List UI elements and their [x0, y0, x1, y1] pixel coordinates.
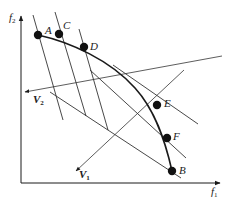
v2-label: V2 — [33, 94, 44, 107]
point-b-label: B — [179, 165, 186, 176]
point-a-label: A — [45, 25, 52, 36]
y-axis-label-sub: 2 — [12, 17, 16, 25]
point-b — [168, 167, 176, 175]
v2-label-sub: 2 — [40, 99, 44, 107]
v1-label: V1 — [79, 169, 90, 182]
point-c-label: C — [63, 20, 70, 31]
point-d — [80, 43, 88, 51]
point-f — [163, 134, 171, 142]
v2-direction-line — [25, 56, 222, 92]
point-a — [34, 31, 42, 39]
v1-level-line-e — [113, 65, 198, 124]
point-d-label: D — [90, 41, 98, 52]
point-e-label: E — [164, 98, 171, 109]
point-c — [55, 30, 63, 38]
v1-label-sub: 1 — [86, 174, 90, 182]
v2-level-line-c — [55, 12, 86, 116]
x-axis-label-sub: 1 — [214, 191, 218, 199]
point-e — [153, 101, 161, 109]
x-axis-label: f1 — [211, 186, 218, 199]
y-axis-label: f2 — [9, 12, 16, 25]
point-f-label: F — [173, 131, 180, 142]
